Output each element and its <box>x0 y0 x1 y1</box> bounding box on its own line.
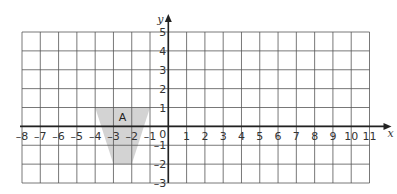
x-axis-label: x <box>388 127 395 140</box>
x-tick-label: –5 <box>71 130 84 143</box>
y-tick-label: 3 <box>159 64 166 77</box>
x-tick-label: –7 <box>34 130 47 143</box>
x-tick-label: 4 <box>238 130 245 143</box>
y-tick-label: 1 <box>159 102 166 115</box>
x-tick-label: –4 <box>89 130 102 143</box>
shape-a-label: A <box>119 111 127 124</box>
x-tick-label: 1 <box>183 130 190 143</box>
x-tick-label: 8 <box>311 130 318 143</box>
x-tick-label: 3 <box>220 130 227 143</box>
x-tick-label: 9 <box>329 130 336 143</box>
x-tick-label: 10 <box>344 130 358 143</box>
x-tick-label: 11 <box>363 130 377 143</box>
x-tick-label: 6 <box>275 130 282 143</box>
coordinate-grid: xy–8–7–6–5–4–3–2–1123456789101154321–1–2… <box>0 0 397 194</box>
y-tick-label: 5 <box>159 26 166 39</box>
y-axis-arrow-icon <box>165 14 172 22</box>
x-tick-label: 2 <box>201 130 208 143</box>
x-tick-label: –8 <box>16 130 29 143</box>
y-tick-label: 2 <box>159 83 166 96</box>
origin-label: 0 <box>159 128 166 141</box>
x-tick-label: 5 <box>256 130 263 143</box>
y-axis-label: y <box>156 13 164 26</box>
x-tick-label: –3 <box>107 130 120 143</box>
x-tick-label: –6 <box>52 130 65 143</box>
x-tick-label: 7 <box>293 130 300 143</box>
y-tick-label: –3 <box>154 177 167 190</box>
y-tick-label: 4 <box>159 45 166 58</box>
y-tick-label: –2 <box>154 158 167 171</box>
x-tick-label: –2 <box>125 130 138 143</box>
